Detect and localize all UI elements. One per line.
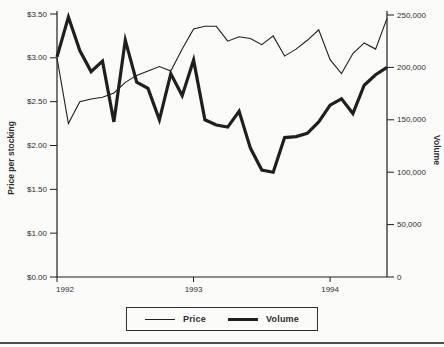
svg-text:1994: 1994 [321, 285, 339, 294]
svg-text:Volume: Volume [432, 135, 442, 165]
legend-item-volume: Volume [228, 314, 299, 324]
svg-text:$1.50: $1.50 [27, 185, 48, 194]
svg-text:1993: 1993 [185, 285, 203, 294]
chart-legend: Price Volume [126, 307, 318, 331]
svg-text:0: 0 [397, 273, 402, 282]
thin-line-sample [145, 319, 175, 320]
thick-line-sample [228, 318, 258, 321]
svg-text:1992: 1992 [56, 285, 74, 294]
legend-label-volume: Volume [266, 314, 299, 324]
bottom-rule [0, 342, 444, 344]
svg-text:$3.00: $3.00 [27, 53, 48, 62]
legend-label-price: Price [183, 314, 206, 324]
svg-text:Price per stocking: Price per stocking [6, 121, 16, 195]
legend-item-price: Price [145, 314, 206, 324]
stocking-price-volume-figure: $3.50$3.00$2.50$2.00$1.50$1.00$0.00250,0… [0, 0, 444, 347]
svg-text:$0.00: $0.00 [27, 273, 48, 282]
svg-text:50,000: 50,000 [397, 220, 422, 229]
svg-text:$2.50: $2.50 [27, 97, 48, 106]
svg-text:200,000: 200,000 [397, 63, 426, 72]
svg-text:250,000: 250,000 [397, 11, 426, 20]
svg-text:$3.50: $3.50 [27, 10, 48, 19]
svg-text:150,000: 150,000 [397, 115, 426, 124]
price-volume-chart: $3.50$3.00$2.50$2.00$1.50$1.00$0.00250,0… [0, 0, 444, 302]
svg-text:100,000: 100,000 [397, 168, 426, 177]
svg-text:$1.00: $1.00 [27, 229, 48, 238]
svg-text:$2.00: $2.00 [27, 141, 48, 150]
